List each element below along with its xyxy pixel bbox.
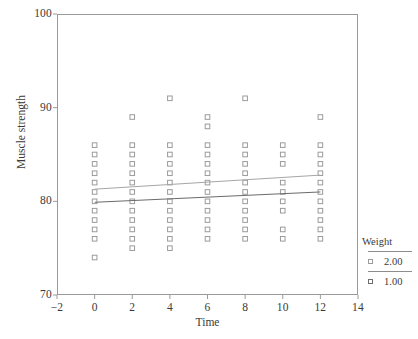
x-tick-label: 10 xyxy=(263,302,303,314)
x-tick-label: −2 xyxy=(37,302,77,314)
legend-marker-square-icon xyxy=(368,259,373,264)
x-tick-label: 4 xyxy=(150,302,190,314)
x-tick-label: 8 xyxy=(225,302,265,314)
x-axis-tick-labels: −202468101214 xyxy=(0,0,418,339)
legend-rule-middle xyxy=(368,271,412,272)
scatter-plot-figure: 708090100 −202468101214 Muscle strength … xyxy=(0,0,418,339)
x-tick-label: 6 xyxy=(188,302,228,314)
legend: Weight 2.00 1.00 xyxy=(362,236,418,288)
x-tick-label: 14 xyxy=(338,302,378,314)
x-tick-label: 0 xyxy=(75,302,115,314)
x-tick-label: 12 xyxy=(300,302,340,314)
legend-item-label: 1.00 xyxy=(384,276,402,288)
x-tick-label: 2 xyxy=(112,302,152,314)
legend-item-1[interactable]: 1.00 xyxy=(368,275,418,288)
legend-item-label: 2.00 xyxy=(384,256,402,268)
legend-title: Weight xyxy=(362,236,418,248)
legend-rule-top xyxy=(368,251,412,252)
y-axis-title: Muscle strength xyxy=(15,72,27,192)
legend-marker-square-icon xyxy=(368,279,373,284)
legend-item-2[interactable]: 2.00 xyxy=(368,255,418,268)
x-axis-title: Time xyxy=(57,316,358,328)
